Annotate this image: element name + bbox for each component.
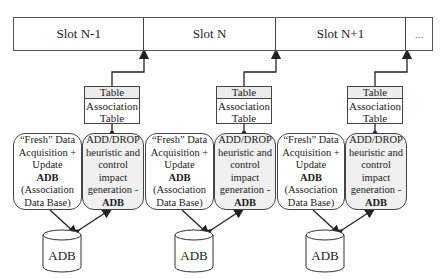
text-line: impact xyxy=(215,172,275,185)
table-body-line: Association xyxy=(217,100,271,112)
text-line: Data Base) xyxy=(14,197,81,210)
table-header: Table xyxy=(348,87,402,99)
table-body-line: Table xyxy=(217,112,271,124)
text-line: Data Base) xyxy=(146,197,213,210)
text-line-bold: ADB xyxy=(83,197,143,210)
fresh-data-acquisition-box-2: “Fresh” Data Acquisition + Update ADB (A… xyxy=(145,133,214,210)
association-table-1: Table AssociationTable xyxy=(84,86,140,124)
adb-database-2: ADB xyxy=(174,229,214,273)
text-line: control xyxy=(346,159,406,172)
text-line: Update xyxy=(14,159,81,172)
text-line: ADD/DROP xyxy=(215,134,275,147)
text-line: Acquisition + xyxy=(278,147,344,160)
text-line-bold: ADB xyxy=(14,172,81,185)
text-line: Data Base) xyxy=(278,197,344,210)
table-body-line: Association xyxy=(348,100,402,112)
database-label: ADB xyxy=(174,248,214,264)
database-label: ADB xyxy=(305,248,345,264)
text-line: generation - xyxy=(346,184,406,197)
text-line: heuristic and xyxy=(346,147,406,160)
text-line: generation - xyxy=(83,184,143,197)
fresh-data-acquisition-box-3: “Fresh” Data Acquisition + Update ADB (A… xyxy=(277,133,345,210)
text-line-bold: ADB xyxy=(346,197,406,210)
table-body-line: Table xyxy=(348,112,402,124)
text-line: Update xyxy=(146,159,213,172)
text-line: impact xyxy=(346,172,406,185)
text-line: “Fresh” Data xyxy=(278,134,344,147)
add-drop-heuristic-box-2: ADD/DROP heuristic and control impact ge… xyxy=(214,133,276,210)
text-line: “Fresh” Data xyxy=(146,134,213,147)
association-table-3: Table AssociationTable xyxy=(347,86,403,124)
database-label: ADB xyxy=(42,248,82,264)
text-line: (Association xyxy=(146,184,213,197)
adb-database-1: ADB xyxy=(42,229,82,273)
text-line: impact xyxy=(83,172,143,185)
text-line: heuristic and xyxy=(83,147,143,160)
association-table-2: Table AssociationTable xyxy=(216,86,272,124)
slot-n: Slot N xyxy=(144,18,275,50)
text-line: “Fresh” Data xyxy=(14,134,81,147)
fresh-data-acquisition-box-1: “Fresh” Data Acquisition + Update ADB (A… xyxy=(13,133,82,210)
adb-database-3: ADB xyxy=(305,229,345,273)
add-drop-heuristic-box-3: ADD/DROP heuristic and control impact ge… xyxy=(345,133,407,210)
slot-n-minus-1: Slot N-1 xyxy=(14,18,144,50)
slot-n-plus-1: Slot N+1 xyxy=(276,18,406,50)
text-line-bold: ADB xyxy=(215,197,275,210)
text-line: control xyxy=(83,159,143,172)
text-line: (Association xyxy=(14,184,81,197)
text-line: generation - xyxy=(215,184,275,197)
text-line: ADD/DROP xyxy=(346,134,406,147)
text-line: heuristic and xyxy=(215,147,275,160)
table-body-line: Association xyxy=(85,100,139,112)
slot-ellipsis: ... xyxy=(406,18,432,50)
text-line: Acquisition + xyxy=(146,147,213,160)
text-line: (Association xyxy=(278,184,344,197)
time-slot-bar: Slot N-1 Slot N Slot N+1 ... xyxy=(13,17,433,51)
table-body-line: Table xyxy=(85,112,139,124)
text-line-bold: ADB xyxy=(146,172,213,185)
text-line-bold: ADB xyxy=(278,172,344,185)
text-line: control xyxy=(215,159,275,172)
text-line: Acquisition + xyxy=(14,147,81,160)
text-line: Update xyxy=(278,159,344,172)
table-header: Table xyxy=(85,87,139,99)
add-drop-heuristic-box-1: ADD/DROP heuristic and control impact ge… xyxy=(82,133,144,210)
table-header: Table xyxy=(217,87,271,99)
text-line: ADD/DROP xyxy=(83,134,143,147)
